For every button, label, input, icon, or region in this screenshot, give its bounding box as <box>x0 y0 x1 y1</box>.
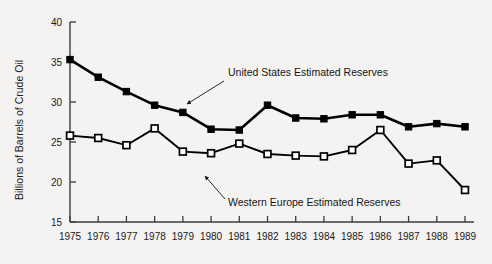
data-point-marker <box>208 126 214 132</box>
data-point-marker <box>321 116 327 122</box>
x-tick-label: 1985 <box>341 231 364 242</box>
x-tick-label: 1983 <box>285 231 308 242</box>
y-tick-label: 35 <box>51 57 63 68</box>
x-tick-label: 1981 <box>228 231 251 242</box>
data-point-marker <box>405 124 411 130</box>
y-tick-label: 25 <box>51 137 63 148</box>
x-tick-label: 1979 <box>172 231 195 242</box>
x-tick-label: 1980 <box>200 231 223 242</box>
data-point-marker <box>462 187 469 194</box>
data-point-marker <box>95 135 102 142</box>
data-point-marker <box>349 147 356 154</box>
data-point-marker <box>292 152 299 159</box>
data-point-marker <box>321 153 328 160</box>
data-point-marker <box>179 148 186 155</box>
data-point-marker <box>236 140 243 147</box>
x-tick-label: 1976 <box>87 231 110 242</box>
data-point-marker <box>180 109 186 115</box>
y-tick-label: 40 <box>51 17 63 28</box>
data-point-marker <box>151 102 157 108</box>
x-tick-label: 1975 <box>59 231 82 242</box>
data-point-marker <box>67 56 73 62</box>
data-point-marker <box>349 112 355 118</box>
data-point-marker <box>462 124 468 130</box>
data-point-marker <box>434 120 440 126</box>
x-tick-label: 1982 <box>256 231 279 242</box>
data-point-marker <box>208 150 215 157</box>
x-tick-label: 1984 <box>313 231 336 242</box>
y-axis-label: Billions of Barrels of Crude Oil <box>13 60 25 200</box>
x-tick-label: 1988 <box>426 231 449 242</box>
data-point-marker <box>123 88 129 94</box>
data-point-marker <box>95 74 101 80</box>
y-tick-label: 30 <box>51 97 63 108</box>
y-tick-label: 20 <box>51 177 63 188</box>
data-point-marker <box>151 125 158 132</box>
chart-figure: 152025303540 197519761977197819791980198… <box>0 0 492 264</box>
x-tick-label: 1978 <box>144 231 167 242</box>
data-point-marker <box>123 142 130 149</box>
we-annotation-label: Western Europe Estimated Reserves <box>228 196 401 208</box>
x-tick-label: 1977 <box>115 231 138 242</box>
data-point-marker <box>264 102 270 108</box>
oil-reserves-line-chart: 152025303540 197519761977197819791980198… <box>0 0 492 264</box>
data-point-marker <box>377 112 383 118</box>
y-tick-label: 15 <box>51 217 63 228</box>
x-tick-label: 1987 <box>397 231 420 242</box>
data-point-marker <box>433 157 440 164</box>
data-point-marker <box>236 127 242 133</box>
data-point-marker <box>264 151 271 158</box>
x-tick-label: 1986 <box>369 231 392 242</box>
data-point-marker <box>377 127 384 134</box>
data-point-marker <box>405 160 412 167</box>
data-point-marker <box>67 132 74 139</box>
us-annotation-label: United States Estimated Reserves <box>228 66 388 78</box>
data-point-marker <box>293 115 299 121</box>
x-tick-label: 1989 <box>454 231 477 242</box>
